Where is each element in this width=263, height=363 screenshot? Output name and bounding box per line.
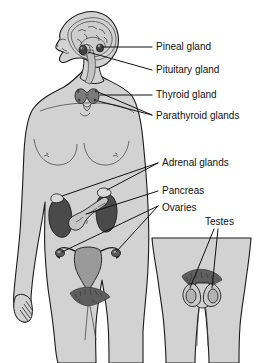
ovary-right xyxy=(112,249,121,256)
endocrine-diagram: Pineal gland Pituitary gland Thyroid gla… xyxy=(0,0,263,363)
parathyroid-gland-4 xyxy=(94,99,97,102)
parathyroid-gland-3 xyxy=(78,99,81,102)
pituitary-gland xyxy=(79,45,87,55)
label-pituitary-gland: Pituitary gland xyxy=(156,64,219,75)
anatomy-illustration: Pineal gland Pituitary gland Thyroid gla… xyxy=(0,0,263,363)
adrenal-gland-left xyxy=(51,194,64,203)
label-pancreas: Pancreas xyxy=(162,185,204,196)
label-thyroid-gland: Thyroid gland xyxy=(156,89,217,100)
label-pineal-gland: Pineal gland xyxy=(156,41,211,52)
ovary-left xyxy=(56,249,65,256)
label-ovaries: Ovaries xyxy=(162,202,196,213)
male-groin-cleft xyxy=(197,309,208,346)
male-inset-figure xyxy=(152,238,251,363)
label-parathyroid-glands: Parathyroid glands xyxy=(156,110,239,121)
testis-right xyxy=(208,289,218,303)
female-body-figure xyxy=(14,12,149,363)
label-adrenal-glands: Adrenal glands xyxy=(162,157,229,168)
label-testes: Testes xyxy=(205,216,234,227)
pineal-gland-highlight xyxy=(98,45,101,48)
testis-left xyxy=(186,289,196,303)
kidney-left xyxy=(49,198,72,238)
parathyroid-gland-1 xyxy=(77,90,80,93)
parathyroid-gland-2 xyxy=(95,90,98,93)
label-texts: Pineal gland Pituitary gland Thyroid gla… xyxy=(156,41,239,227)
